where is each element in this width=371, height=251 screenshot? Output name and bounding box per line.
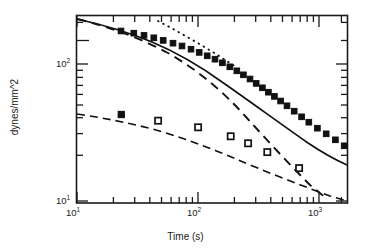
x-tick-label-10: 101: [66, 207, 80, 218]
x-tick-label-1000: 103: [308, 207, 322, 218]
x-axis-title: Time (s): [0, 231, 371, 242]
y-tick-label-10: 101: [56, 195, 70, 206]
y-axis-title: dynes/mm^2: [9, 57, 20, 157]
y-tick-label-100: 102: [56, 58, 70, 69]
chart-figure: 102 101 101 102 103 Time (s) dynes/mm^2: [0, 0, 371, 251]
plot-frame: [77, 16, 348, 204]
solid-fit-curve-upper: [77, 19, 347, 165]
y-axis-ticks: [77, 22, 347, 201]
x-axis-ticks: [77, 16, 341, 203]
series-lower-markers: [118, 111, 302, 171]
y-axis-title-wrap: dynes/mm^2: [9, 57, 23, 157]
dashed-fit-curve-lower: [77, 114, 347, 201]
x-tick-label-100: 102: [187, 207, 201, 218]
